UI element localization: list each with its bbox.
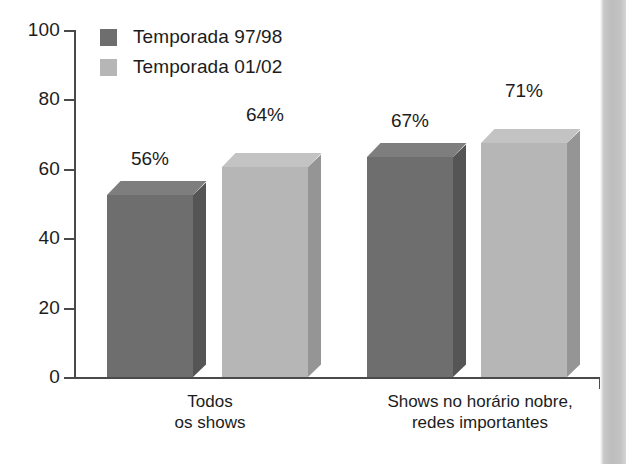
y-label-20-wrap: 20 (0, 297, 60, 319)
y-label-40-wrap: 40 (0, 227, 60, 249)
bar-group2-serie1[interactable] (367, 143, 453, 377)
legend-label-1: Temporada 97/98 (133, 26, 282, 48)
y-axis-label-80: 80 (4, 88, 60, 110)
x-axis-category-1: Todos os shows (115, 391, 305, 433)
x-axis-category-2: Shows no horário nobre, redes importante… (355, 391, 605, 433)
bar-side-face (308, 154, 321, 377)
y-axis-label-40: 40 (4, 227, 60, 249)
bar-value-label-3: 67% (367, 110, 453, 132)
bar-value-label-2: 64% (222, 104, 308, 126)
bar-group2-serie2[interactable] (481, 129, 567, 377)
chart-page: 100 80 60 40 20 0 56% (0, 0, 630, 464)
category-1-line-1: Todos (115, 391, 305, 412)
chart-legend: Temporada 97/98 Temporada 01/02 (100, 22, 282, 82)
page-edge-strip (600, 0, 626, 464)
bar-top-face (367, 143, 467, 157)
y-tick-60 (64, 169, 76, 171)
y-label-60-wrap: 60 (0, 158, 60, 180)
y-label-0-wrap: 0 (0, 366, 60, 388)
y-tick-40 (64, 238, 76, 240)
y-tick-20 (64, 308, 76, 310)
bar-value-label-4: 71% (481, 80, 567, 102)
category-2-line-2: redes importantes (355, 412, 605, 433)
plot-area: 100 80 60 40 20 0 56% (0, 0, 630, 464)
legend-item-2[interactable]: Temporada 01/02 (100, 52, 282, 82)
y-axis-line (74, 30, 76, 379)
legend-label-2: Temporada 01/02 (133, 56, 282, 78)
bar-front-face (367, 157, 453, 377)
bar-front-face (222, 167, 308, 377)
bar-front-face (481, 143, 567, 377)
y-axis-label-0: 0 (4, 366, 60, 388)
y-tick-80 (64, 99, 76, 101)
legend-swatch-icon-1 (100, 29, 117, 46)
bar-side-face (193, 182, 206, 377)
bar-side-face (567, 130, 580, 377)
bar-front-face (107, 195, 193, 377)
category-1-line-2: os shows (115, 412, 305, 433)
bar-value-label-1: 56% (107, 148, 193, 170)
y-label-80-wrap: 80 (0, 88, 60, 110)
category-2-line-1: Shows no horário nobre, (355, 391, 605, 412)
bar-top-face (222, 153, 322, 167)
bar-top-face (481, 129, 581, 143)
bar-top-face (107, 181, 207, 195)
y-axis-label-20: 20 (4, 297, 60, 319)
y-tick-100 (64, 30, 76, 32)
bar-group1-serie1[interactable] (107, 181, 193, 377)
y-tick-0 (64, 377, 76, 379)
bar-side-face (453, 144, 466, 377)
x-axis-line (70, 377, 601, 379)
y-axis-label-100: 100 (4, 19, 60, 41)
y-label-100-wrap: 100 (0, 19, 60, 41)
bar-group1-serie2[interactable] (222, 153, 308, 377)
legend-swatch-icon-2 (100, 59, 117, 76)
y-axis-label-60: 60 (4, 158, 60, 180)
legend-item-1[interactable]: Temporada 97/98 (100, 22, 282, 52)
